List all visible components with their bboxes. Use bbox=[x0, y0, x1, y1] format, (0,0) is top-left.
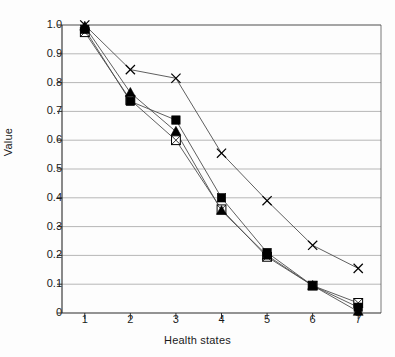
data-point-filled-square bbox=[81, 25, 89, 33]
series-lines bbox=[85, 25, 358, 312]
series-line-open-square-with-x bbox=[85, 32, 358, 303]
data-point-filled-square bbox=[354, 303, 362, 311]
data-point-filled-triangle bbox=[171, 126, 181, 135]
data-point-filled-square bbox=[126, 97, 134, 105]
chart-figure: Value 1.00.90.80.70.60.50.40.30.20.10 12… bbox=[0, 0, 395, 357]
series-line-filled-square bbox=[85, 29, 358, 307]
series-markers bbox=[80, 20, 363, 315]
data-point-filled-square bbox=[263, 248, 271, 256]
data-point-filled-square bbox=[308, 281, 316, 289]
data-point-filled-square bbox=[217, 194, 225, 202]
x-axis-tick-marks bbox=[85, 313, 358, 319]
series-line-x-cross bbox=[85, 25, 358, 268]
data-point-filled-triangle bbox=[125, 87, 135, 96]
data-point-filled-square bbox=[172, 116, 180, 124]
plot-area bbox=[0, 0, 395, 357]
y-axis-tick-marks bbox=[57, 25, 62, 313]
gridlines bbox=[62, 25, 381, 284]
